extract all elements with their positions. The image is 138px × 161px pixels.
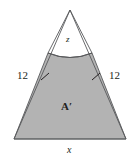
label-right-side-length: 12 xyxy=(109,70,120,81)
label-shaded-region-area: A′ xyxy=(61,101,72,112)
geometry-figure: z A′ x 12 12 xyxy=(0,0,138,161)
label-top-region-z: z xyxy=(66,35,70,44)
shaded-region-shape xyxy=(14,53,126,139)
label-base-x: x xyxy=(67,145,71,155)
top-region-shape xyxy=(48,10,92,58)
label-left-side-length: 12 xyxy=(17,70,28,81)
